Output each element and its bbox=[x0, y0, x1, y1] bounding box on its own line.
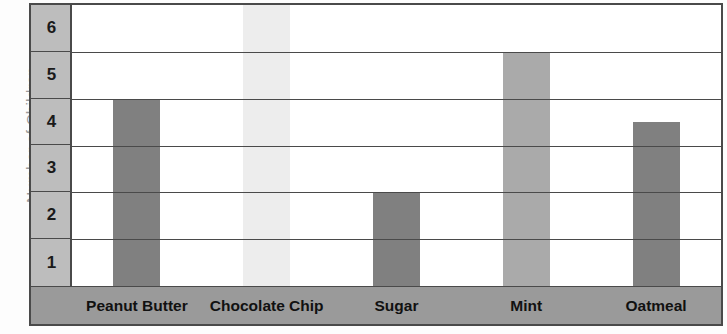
bar-mint bbox=[503, 52, 550, 286]
gridline bbox=[72, 192, 721, 193]
plot-area bbox=[72, 5, 721, 286]
y-axis-tick-column: 654321 bbox=[31, 5, 72, 286]
x-axis-label-mint: Mint bbox=[461, 287, 591, 324]
gridline bbox=[72, 146, 721, 147]
y-axis-tick-6: 6 bbox=[31, 5, 72, 52]
y-axis-tick-5: 5 bbox=[31, 52, 72, 99]
gridline bbox=[72, 52, 721, 53]
y-axis-tick-3: 3 bbox=[31, 146, 72, 193]
gridline bbox=[72, 239, 721, 240]
x-axis-label-strip: Peanut ButterChocolate ChipSugarMintOatm… bbox=[29, 287, 723, 326]
chart-container: Number of Children 654321 Peanut ButterC… bbox=[0, 0, 727, 334]
x-axis-label-chocolate-chip: Chocolate Chip bbox=[202, 287, 332, 324]
y-axis-tick-1: 1 bbox=[31, 239, 72, 286]
bar-oatmeal bbox=[633, 122, 680, 286]
x-axis-label-sugar: Sugar bbox=[332, 287, 462, 324]
chart-plot-frame: 654321 bbox=[29, 3, 723, 288]
x-axis-label-peanut-butter: Peanut Butter bbox=[72, 287, 202, 324]
gridline bbox=[72, 99, 721, 100]
y-axis-tick-4: 4 bbox=[31, 99, 72, 146]
y-axis-tick-2: 2 bbox=[31, 192, 72, 239]
x-axis-label-oatmeal: Oatmeal bbox=[591, 287, 721, 324]
